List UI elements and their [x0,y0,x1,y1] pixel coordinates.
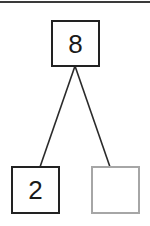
whole-box: 8 [51,20,100,67]
part-left-value: 2 [28,177,42,203]
part-box-right-empty[interactable] [91,166,140,214]
part-box-left: 2 [11,166,60,214]
number-bond-diagram: 8 2 [0,0,150,226]
connector-left [40,66,75,167]
whole-value: 8 [68,31,82,57]
connector-right [75,66,110,167]
